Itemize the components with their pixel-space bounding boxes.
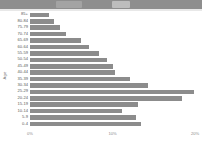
chart-row: 15-19 (30, 102, 195, 108)
bar[interactable] (30, 13, 49, 18)
chart-row: 50-54 (30, 57, 195, 63)
chart-row: 70-74 (30, 31, 195, 37)
bar[interactable] (30, 32, 66, 37)
x-axis-tick-label: 20% (191, 131, 199, 136)
chart-row: 80-84 (30, 18, 195, 24)
x-axis-tick-label: 10% (108, 131, 116, 136)
chart-row: 75-79 (30, 25, 195, 31)
bar[interactable] (30, 122, 141, 127)
bar[interactable] (30, 83, 148, 88)
y-axis-tick-label: 0-4 (2, 121, 28, 127)
x-axis: 0%10%20% (30, 127, 195, 143)
bar[interactable] (30, 25, 60, 30)
chart-screenshot: Age 85+80-8475-7970-7465-6960-6455-5950-… (0, 0, 202, 146)
chart-row: 25-29 (30, 89, 195, 95)
bar[interactable] (30, 109, 122, 114)
bar[interactable] (30, 70, 115, 75)
app-chrome-bar (0, 0, 202, 9)
bar[interactable] (30, 64, 113, 69)
chart-row: 60-64 (30, 44, 195, 50)
bar[interactable] (30, 90, 194, 95)
chrome-tab-one[interactable] (56, 1, 82, 8)
chart-row: 30-34 (30, 83, 195, 89)
bar[interactable] (30, 58, 107, 63)
chart-row: 55-59 (30, 51, 195, 57)
bar[interactable] (30, 45, 89, 50)
chart-row: 65-69 (30, 38, 195, 44)
bar[interactable] (30, 96, 182, 101)
age-distribution-bar-chart: Age 85+80-8475-7970-7465-6960-6455-5950-… (0, 11, 202, 146)
bar[interactable] (30, 102, 138, 107)
bar[interactable] (30, 115, 136, 120)
chart-row: 40-44 (30, 70, 195, 76)
chrome-tab-two[interactable] (112, 1, 130, 8)
chart-row: 20-24 (30, 95, 195, 101)
bar[interactable] (30, 38, 81, 43)
chart-row: 35-39 (30, 76, 195, 82)
x-axis-tick-label: 0% (27, 131, 33, 136)
bar[interactable] (30, 51, 99, 56)
bar[interactable] (30, 19, 54, 24)
plot-area: 85+80-8475-7970-7465-6960-6455-5950-5445… (30, 11, 195, 126)
chart-row: 10-14 (30, 108, 195, 114)
bar[interactable] (30, 77, 130, 82)
